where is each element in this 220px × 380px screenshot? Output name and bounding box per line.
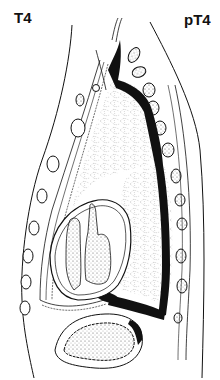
outer-contour-left [22, 25, 72, 378]
sagittal-anatomy-illustration-icon [0, 0, 220, 380]
